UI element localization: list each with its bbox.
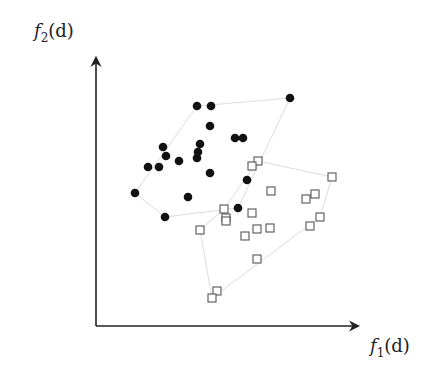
cluster-hull-1 (135, 98, 290, 217)
square-point (316, 213, 324, 221)
square-point (302, 195, 310, 203)
circle-point (162, 152, 171, 161)
circle-point (144, 163, 153, 172)
x-label-argument: (d) (384, 335, 410, 356)
data-points (131, 94, 336, 302)
circle-point (175, 157, 184, 166)
circle-point (131, 189, 140, 198)
square-point (248, 162, 256, 170)
circle-point (159, 143, 168, 152)
x-label-name: f (370, 335, 377, 356)
circle-point (193, 102, 202, 111)
circle-point (155, 163, 164, 172)
square-point (328, 173, 336, 181)
circle-point (239, 134, 248, 143)
square-point (222, 217, 230, 225)
square-point (196, 226, 204, 234)
circle-point (234, 204, 243, 213)
y-label-name: f (34, 20, 41, 41)
circle-point (196, 140, 205, 149)
square-point (306, 222, 314, 230)
square-point (253, 225, 261, 233)
circle-point (184, 193, 193, 202)
y-label-argument: (d) (48, 20, 74, 41)
scatter-plot (0, 0, 443, 374)
circle-point (207, 102, 216, 111)
circle-point (206, 169, 215, 178)
square-point (248, 209, 256, 217)
circle-point (206, 122, 215, 131)
x-axis-label: f1(d) (370, 335, 410, 360)
circle-point (161, 213, 170, 222)
circle-point (286, 94, 295, 103)
square-point (311, 190, 319, 198)
y-axis-label: f2(d) (34, 20, 74, 45)
square-point (267, 187, 275, 195)
circle-point (193, 154, 202, 163)
square-point (208, 294, 216, 302)
square-point (241, 232, 249, 240)
square-point (266, 224, 274, 232)
circle-point (243, 176, 252, 185)
circle-point (231, 134, 240, 143)
square-point (220, 205, 228, 213)
square-point (253, 255, 261, 263)
